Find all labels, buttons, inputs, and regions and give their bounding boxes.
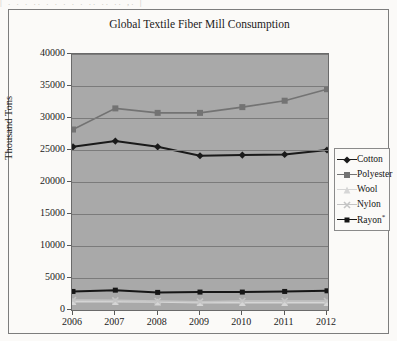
series-rayon [72,288,328,295]
legend-label: Rayon* [357,211,385,227]
data-point [155,290,160,295]
legend-marker-icon [337,183,357,197]
gridline [72,54,328,55]
y-tick-label: 0 [5,303,65,314]
x-tick-mark [326,311,327,315]
legend-item-cotton[interactable]: Cotton [337,152,387,167]
chart-legend: CottonPolyesterWoolNylonRayon* [334,148,390,231]
data-point [198,290,203,295]
data-point [282,98,288,104]
gridline [72,214,328,215]
series-polyester [72,86,328,132]
x-tick-label: 2006 [50,316,94,327]
scan-smudge-text: | . . . .. . . . . . .. .. .. ,. | [0,0,144,7]
legend-marker-icon [337,213,357,227]
y-tick-label: 5000 [5,271,65,282]
x-tick-mark [284,311,285,315]
scan-edge-artifact: | . . . .. . . . . . .. .. .. ,. | [0,0,397,8]
data-point [282,289,287,294]
gridline [72,118,328,119]
data-point [72,289,76,294]
data-point [197,110,203,116]
legend-label: Wool [357,183,377,196]
y-tick-label: 30000 [5,111,65,122]
data-point [239,104,245,110]
gridline [72,278,328,279]
data-point [112,105,118,111]
legend-label: Nylon [357,198,381,211]
legend-label: Cotton [357,153,383,166]
x-tick-label: 2008 [135,316,179,327]
series-line [73,89,327,129]
plot-area [71,53,329,311]
y-tick-label: 35000 [5,79,65,90]
x-tick-label: 2012 [304,316,348,327]
x-tick-label: 2007 [92,316,136,327]
x-tick-mark [199,311,200,315]
data-point [324,86,328,92]
legend-label: Polyester [357,168,392,181]
gridline [72,86,328,87]
data-point [240,290,245,295]
data-point [113,288,118,293]
data-point [325,288,329,293]
legend-item-wool[interactable]: Wool [337,182,387,197]
gridline [72,150,328,151]
data-point [239,152,246,159]
x-tick-label: 2009 [177,316,221,327]
legend-marker-icon [337,198,357,212]
chart-frame: Global Textile Fiber Mill Consumption Th… [8,9,389,334]
data-point [112,137,119,144]
data-point [196,152,203,159]
data-point [155,110,161,116]
y-tick-label: 20000 [5,175,65,186]
legend-marker-icon [337,168,357,182]
legend-item-polyester[interactable]: Polyester [337,167,387,182]
x-tick-mark [114,311,115,315]
y-tick-label: 15000 [5,207,65,218]
gridline [72,182,328,183]
data-point [281,151,288,158]
x-tick-mark [72,311,73,315]
y-tick-label: 25000 [5,143,65,154]
series-cotton [72,137,328,159]
gridline [72,246,328,247]
x-tick-label: 2011 [262,316,306,327]
y-tick-label: 40000 [5,47,65,58]
y-tick-label: 10000 [5,239,65,250]
x-tick-mark [241,311,242,315]
data-point [72,127,76,133]
x-tick-label: 2010 [219,316,263,327]
legend-item-nylon[interactable]: Nylon [337,197,387,212]
chart-title: Global Textile Fiber Mill Consumption [9,18,390,30]
x-tick-mark [157,311,158,315]
legend-item-rayon[interactable]: Rayon* [337,212,387,227]
legend-marker-icon [337,153,357,167]
